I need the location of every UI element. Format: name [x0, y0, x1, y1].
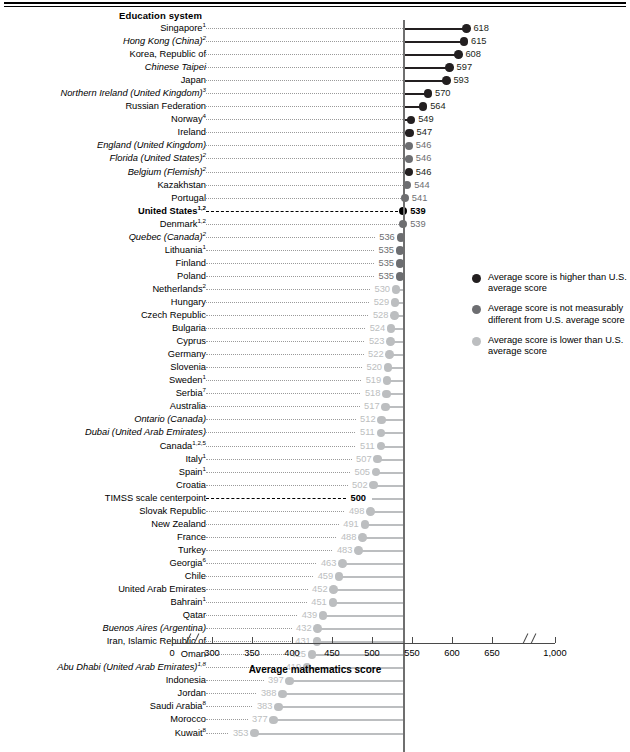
- row-leader-line: [206, 106, 403, 107]
- row-stem: [318, 628, 404, 630]
- row-label: Portugal: [0, 192, 206, 205]
- row-marker-dot: [419, 102, 428, 111]
- row-label: Lithuania1: [0, 244, 206, 257]
- row-label: Ireland: [0, 126, 206, 139]
- chart-row: Jordan388: [0, 687, 630, 700]
- row-label: Canada1,2,5: [0, 440, 206, 453]
- axis-tick: [555, 637, 556, 643]
- row-stem: [358, 550, 403, 552]
- chart-row: Italy1507: [0, 453, 630, 466]
- row-value: 520: [362, 361, 382, 374]
- row-value: 500: [346, 492, 366, 505]
- row-label-superscript: 1: [203, 243, 206, 250]
- row-value: 608: [465, 48, 481, 61]
- row-leader-line: [206, 406, 360, 407]
- row-label: Indonesia: [0, 674, 206, 687]
- chart-row: Finland535: [0, 257, 630, 270]
- chart-row: England (United Kingdom)546: [0, 139, 630, 152]
- row-label-superscript: 1: [203, 595, 206, 602]
- row-marker-dot: [278, 690, 287, 699]
- row-label-superscript: 2: [203, 230, 206, 237]
- row-label: Chinese Taipei: [0, 61, 206, 74]
- row-stem: [403, 28, 466, 30]
- row-leader-line: [206, 237, 375, 238]
- row-value: 439: [297, 609, 317, 622]
- row-label: Cyprus: [0, 335, 206, 348]
- chart-row: United Arab Emirates452: [0, 583, 630, 596]
- row-label: Czech Republic: [0, 309, 206, 322]
- chart-row: Canada1,2,5511: [0, 440, 630, 453]
- row-value: 524: [365, 322, 385, 335]
- row-label: Russian Federation: [0, 100, 206, 113]
- row-leader-line: [206, 67, 403, 68]
- chart-row: Croatia502: [0, 479, 630, 492]
- chart-row: Korea, Republic of608: [0, 48, 630, 61]
- row-marker-dot: [386, 337, 395, 346]
- axis-tick-label: 500: [352, 648, 392, 658]
- row-value: 529: [369, 296, 389, 309]
- chart-row: Norway4549: [0, 113, 630, 126]
- row-value: 491: [339, 518, 359, 531]
- row-marker-dot: [358, 533, 367, 542]
- row-value: 463: [316, 557, 336, 570]
- row-marker-dot: [401, 194, 410, 203]
- row-value: 452: [308, 583, 328, 596]
- row-value: 383: [252, 700, 272, 713]
- row-leader-line: [206, 263, 374, 264]
- row-marker-dot: [361, 520, 370, 529]
- row-label: Germany: [0, 348, 206, 361]
- row-leader-line: [206, 589, 308, 590]
- row-marker-dot: [313, 624, 322, 633]
- row-leader-line: [206, 276, 374, 277]
- row-label-superscript: 8: [203, 725, 206, 732]
- row-value: 564: [430, 100, 446, 113]
- row-marker-dot: [329, 598, 338, 607]
- row-leader-line: [206, 680, 264, 681]
- row-label: TIMSS scale centerpoint: [0, 492, 206, 505]
- row-value: 483: [332, 544, 352, 557]
- chart-row: Indonesia397: [0, 674, 630, 687]
- row-marker-dot: [405, 142, 414, 151]
- row-value: 498: [344, 505, 364, 518]
- row-label-superscript: 2: [203, 151, 206, 158]
- legend-dot-same-icon: [472, 305, 481, 314]
- row-value: 535: [374, 270, 394, 283]
- row-value: 522: [364, 348, 384, 361]
- row-label-superscript: 2: [203, 34, 206, 41]
- chart-rows: Singapore1618Hong Kong (China)2615Korea,…: [0, 22, 630, 740]
- chart-row: Quebec (Canada)2536: [0, 231, 630, 244]
- row-stem: [339, 576, 403, 578]
- row-label: Sweden1: [0, 374, 206, 387]
- legend-item-lower: Average score is lower than U.S. average…: [472, 335, 630, 357]
- row-leader-line: [206, 119, 403, 120]
- row-marker-dot: [377, 429, 386, 438]
- row-marker-dot: [274, 703, 283, 712]
- row-marker-dot: [250, 729, 259, 738]
- row-label: Belgium (Flemish)2: [0, 166, 206, 179]
- row-value: 397: [264, 674, 284, 687]
- row-value: 512: [356, 413, 376, 426]
- chart-row: Slovak Republic498: [0, 505, 630, 518]
- row-stem: [362, 537, 403, 539]
- chart-row: Turkey483: [0, 544, 630, 557]
- legend-dot-higher-icon: [472, 274, 481, 283]
- row-stem: [403, 67, 449, 69]
- row-leader-line: [206, 250, 374, 251]
- row-marker-dot: [382, 390, 391, 399]
- row-label-superscript: 1,2,5: [192, 438, 206, 445]
- axis-tick: [212, 637, 213, 643]
- top-rule-thick: [4, 2, 626, 4]
- x-axis-title: Average mathematics score: [0, 664, 630, 675]
- row-leader-line: [206, 419, 356, 420]
- row-marker-dot: [383, 376, 392, 385]
- row-label: Denmark1,2: [0, 218, 206, 231]
- row-value: 544: [414, 179, 430, 192]
- row-marker-dot: [462, 24, 471, 33]
- row-leader-line: [206, 145, 403, 146]
- row-leader-line: [206, 537, 336, 538]
- chart-row: Saudi Arabia8383: [0, 700, 630, 713]
- row-marker-dot: [384, 363, 393, 372]
- axis-tick: [492, 637, 493, 643]
- row-leader-line: [206, 393, 360, 394]
- row-label: Japan: [0, 74, 206, 87]
